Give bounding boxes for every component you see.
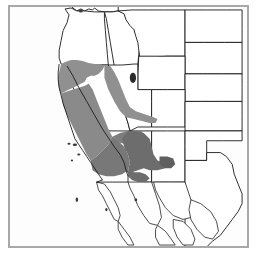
- state-oregon: [59, 8, 108, 66]
- island-tiburon: [134, 198, 137, 201]
- great-salt-lake: [130, 73, 136, 83]
- state-nebraska: [185, 74, 242, 102]
- mexico-baja-california: [97, 182, 121, 221]
- mexico-baja-california-sur: [118, 221, 134, 245]
- island-guadalupe: [76, 198, 79, 202]
- state-north-dakota: [185, 10, 242, 42]
- state-new-mexico: [152, 131, 185, 182]
- map-frame: [8, 5, 249, 248]
- state-wyoming: [138, 56, 185, 89]
- channel-island-san-clemente: [71, 160, 73, 162]
- channel-island-santa-rosa: [67, 143, 70, 145]
- state-kansas: [185, 101, 242, 131]
- screenshot-root: [0, 0, 259, 263]
- channel-island-santa-cruz: [73, 144, 77, 146]
- distribution-range-map: [10, 7, 247, 246]
- channel-island-catalina: [77, 153, 80, 155]
- island-puget-sound: [79, 9, 83, 12]
- state-colorado: [152, 90, 185, 127]
- mexico-sinaloa: [156, 225, 176, 245]
- state-south-dakota: [185, 42, 242, 73]
- island-cedros: [105, 208, 107, 211]
